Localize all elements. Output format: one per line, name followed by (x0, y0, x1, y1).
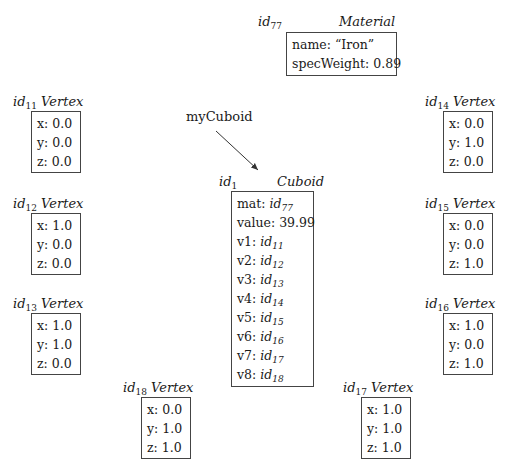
field-v6: v6: id16 (237, 327, 307, 346)
field-x: x: 1.0 (449, 316, 486, 335)
field-value: value: 39.99 (237, 213, 307, 232)
field-z: z: 0.0 (37, 354, 74, 373)
field-z: z: 1.0 (449, 254, 486, 273)
vertex-fields-box: x: 1.0 y: 0.0 z: 0.0 (31, 213, 81, 275)
field-x: x: 1.0 (37, 216, 74, 235)
field-z: z: 1.0 (367, 438, 404, 457)
variable-mycuboid: myCuboid (186, 109, 253, 124)
field-y: y: 1.0 (367, 419, 404, 438)
field-name: name: “Iron” (292, 35, 390, 54)
field-x: x: 0.0 (449, 216, 486, 235)
field-z: z: 0.0 (449, 152, 486, 171)
vertex-fields-box: x: 1.0 y: 0.0 z: 1.0 (443, 313, 493, 375)
field-y: y: 0.0 (37, 133, 74, 152)
field-z: z: 1.0 (449, 354, 486, 373)
vertex-fields-box: x: 1.0 y: 1.0 z: 0.0 (31, 313, 81, 375)
field-v1: v1: id11 (237, 232, 307, 251)
field-specweight: specWeight: 0.89 (292, 54, 390, 73)
field-x: x: 0.0 (449, 114, 486, 133)
field-y: y: 1.0 (147, 419, 184, 438)
field-x: x: 1.0 (367, 400, 404, 419)
class-name: Material (339, 15, 395, 29)
cuboid-fields-box: mat: id77 value: 39.99 v1: id11 v2: id12… (231, 191, 314, 387)
field-x: x: 0.0 (37, 114, 74, 133)
vertex-fields-box: x: 0.0 y: 0.0 z: 0.0 (31, 111, 81, 173)
field-mat: mat: id77 (237, 194, 307, 213)
field-z: z: 0.0 (37, 254, 74, 273)
field-z: z: 0.0 (37, 152, 74, 171)
field-y: y: 0.0 (449, 235, 486, 254)
object-header: id77 Material (258, 15, 398, 33)
field-x: x: 1.0 (37, 316, 74, 335)
material-fields-box: name: “Iron” specWeight: 0.89 (286, 32, 397, 76)
field-v5: v5: id15 (237, 308, 307, 327)
field-y: y: 1.0 (37, 335, 74, 354)
vertex-fields-box: x: 1.0 y: 1.0 z: 1.0 (361, 397, 411, 459)
vertex-fields-box: x: 0.0 y: 0.0 z: 1.0 (443, 213, 493, 275)
field-v7: v7: id17 (237, 346, 307, 365)
object-id: id77 (258, 14, 282, 29)
field-v4: v4: id14 (237, 289, 307, 308)
field-v3: v3: id13 (237, 270, 307, 289)
field-z: z: 1.0 (147, 438, 184, 457)
class-name: Cuboid (277, 175, 324, 189)
field-y: y: 0.0 (37, 235, 74, 254)
field-x: x: 0.0 (147, 400, 184, 419)
field-v8: v8: id18 (237, 365, 307, 384)
object-id: id1 (219, 174, 237, 189)
vertex-fields-box: x: 0.0 y: 1.0 z: 0.0 (443, 111, 493, 173)
vertex-fields-box: x: 0.0 y: 1.0 z: 1.0 (141, 397, 191, 459)
field-y: y: 0.0 (449, 335, 486, 354)
field-v2: v2: id12 (237, 251, 307, 270)
field-y: y: 1.0 (449, 133, 486, 152)
